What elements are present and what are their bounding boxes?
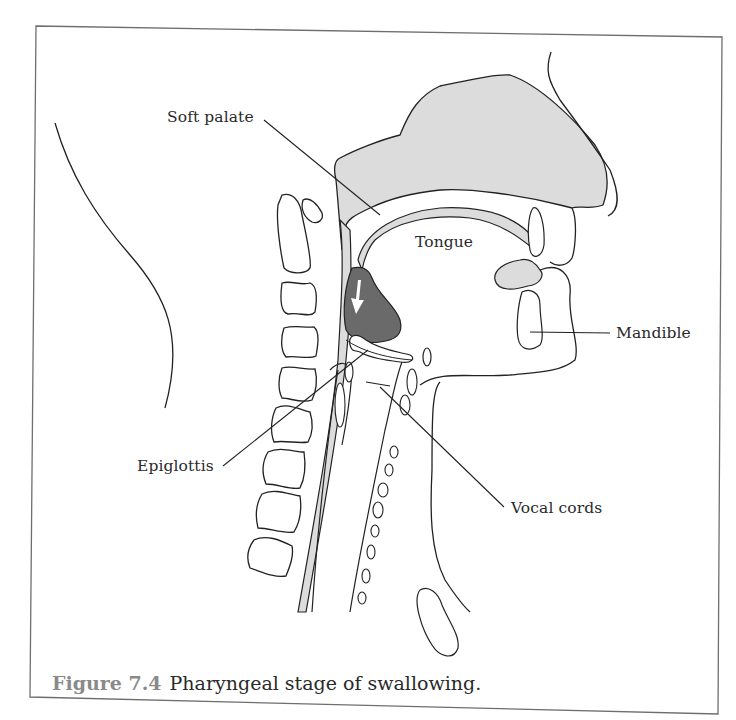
- figure-container: Soft palate Tongue Mandible Epiglottis V…: [0, 0, 736, 720]
- larynx-front: [350, 362, 402, 612]
- vertebra-dens: [302, 199, 322, 222]
- vertebra: [248, 538, 293, 577]
- pharynx-diagram: [0, 0, 736, 720]
- vertebra: [282, 327, 318, 358]
- throat-outline: [431, 382, 470, 612]
- nasal-cavity: [335, 75, 608, 250]
- vertebra: [256, 491, 300, 532]
- label-epiglottis: Epiglottis: [137, 457, 214, 475]
- vocal-fold-mark: [366, 382, 390, 386]
- mandible-bone: [517, 291, 542, 350]
- tracheal-ring: [367, 545, 375, 559]
- neck-outline-icon: [55, 123, 173, 408]
- tracheal-ring: [373, 502, 383, 518]
- label-vocal-cords: Vocal cords: [511, 499, 602, 517]
- figure-caption: Figure 7.4Pharyngeal stage of swallowing…: [52, 672, 481, 694]
- tracheal-ring: [362, 569, 370, 583]
- upper-lip: [550, 208, 575, 265]
- tracheal-ring: [390, 446, 398, 458]
- tracheal-ring: [407, 369, 417, 395]
- hyoid-oval: [423, 348, 431, 366]
- tracheal-ring: [378, 483, 388, 497]
- tracheal-ring: [400, 395, 410, 415]
- tracheal-ring: [371, 525, 379, 537]
- label-soft-palate: Soft palate: [167, 108, 254, 126]
- figure-frame: [30, 26, 722, 714]
- tracheal-ring: [385, 464, 393, 476]
- caption-text: Pharyngeal stage of swallowing.: [170, 672, 482, 694]
- arytenoid-oval-2: [335, 383, 345, 427]
- label-mandible: Mandible: [616, 324, 691, 342]
- vertebra: [281, 282, 317, 315]
- vertebra: [263, 449, 305, 488]
- caption-number: Figure 7.4: [52, 672, 162, 694]
- upper-incisor: [528, 208, 544, 257]
- clavicle-shape: [417, 588, 458, 656]
- bolus: [344, 267, 401, 342]
- tracheal-ring: [358, 592, 366, 604]
- label-tongue: Tongue: [415, 233, 473, 251]
- leader-vocal-cords: [380, 387, 504, 507]
- tongue-tip: [495, 259, 542, 289]
